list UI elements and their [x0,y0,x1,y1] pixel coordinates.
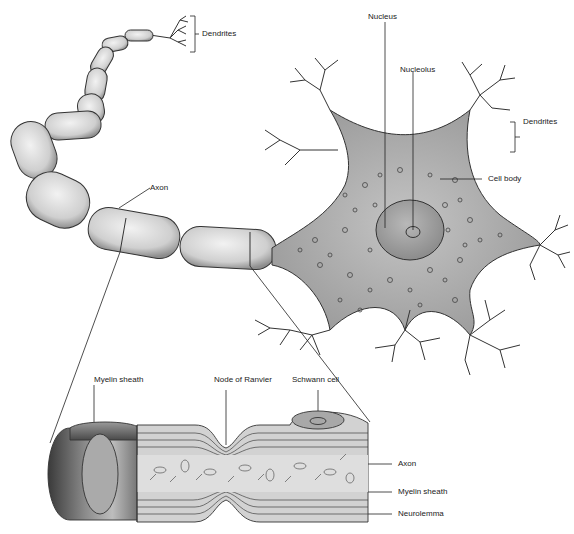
label-schwann-cell: Schwann cell [292,375,339,385]
nucleus [376,200,444,260]
projection-line-left [50,252,120,443]
myelin-segment [85,204,183,261]
neuron-diagram: Dendrites Nucleus Nucleolus Dendrites Ce… [0,0,574,534]
myelinated-axon [5,30,277,270]
label-axon-upper: Axon [150,183,168,193]
schwann-cell [292,411,344,429]
myelin-cross-section [48,411,368,522]
label-node-of-ranvier: Node of Ranvier [214,375,272,385]
label-nucleolus: Nucleolus [400,65,435,75]
label-dendrites-top: Dendrites [202,29,236,39]
cell-body [272,110,540,335]
leader-axon [119,188,150,208]
axon-core [137,455,368,492]
neuron-illustration [0,0,574,534]
myelin-segment [179,226,277,271]
label-myelin-sheath-detail: Myelin sheath [398,487,447,497]
label-myelin-sheath-upper: Myelin sheath [94,375,143,385]
myelin-segment [44,110,102,141]
myelin-segment [125,30,153,41]
bracket-dendrites-top [190,16,199,52]
label-neurolemma: Neurolemma [398,509,444,519]
label-nucleus: Nucleus [368,12,397,22]
sheath-spiral-end [82,434,118,514]
label-cell-body: Cell body [488,174,521,184]
bracket-dendrites-right [510,122,520,152]
label-axon-detail: Axon [398,459,416,469]
label-dendrites-right: Dendrites [523,117,557,127]
